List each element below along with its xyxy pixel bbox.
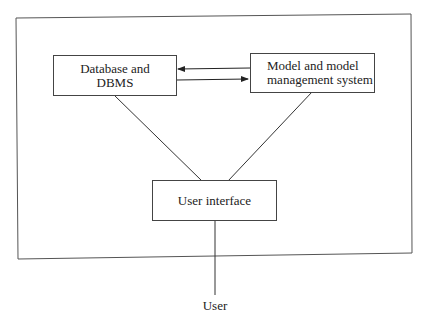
model-label-line2: management system [267, 73, 373, 87]
model-management-box: Model and model management system [250, 53, 375, 93]
user-interface-box: User interface [152, 180, 277, 221]
database-label-line2: DBMS [80, 76, 150, 90]
line-database-to-ui [114, 95, 202, 181]
database-dbms-box: Database and DBMS [53, 55, 177, 96]
model-label-line1: Model and model [267, 59, 373, 73]
user-interface-label: User interface [178, 194, 251, 208]
system-boundary [16, 14, 412, 259]
arrow-model-to-database [178, 68, 250, 69]
arrow-database-to-model [177, 79, 248, 80]
database-label-line1: Database and [80, 62, 150, 76]
line-model-to-ui [228, 92, 312, 181]
diagram-canvas [0, 0, 428, 326]
user-label: User [195, 298, 235, 314]
